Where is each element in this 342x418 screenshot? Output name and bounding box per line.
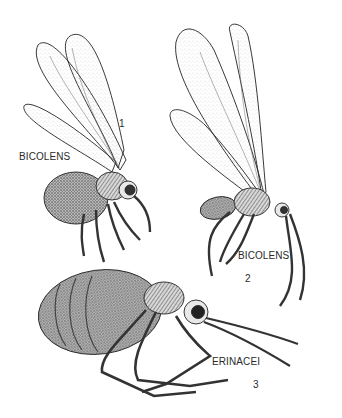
- specimen-2-number: 2: [245, 273, 251, 284]
- specimen-3-abdomen: [33, 262, 167, 362]
- specimen-1-label: BICOLENS: [19, 151, 70, 162]
- specimen-2-thorax: [234, 188, 270, 216]
- specimen-3-label: ERINACEI: [212, 356, 260, 367]
- specimen-2-eye: [281, 207, 288, 214]
- insect-illustration-plate: 1 BICOLENS BICOLENS 2 ERINACEI 3: [0, 0, 342, 418]
- illustration-drawing: [0, 0, 342, 418]
- specimen-2-abdomen: [198, 193, 238, 222]
- specimen-3-thorax: [144, 282, 184, 314]
- specimen-2-label: BICOLENS: [238, 250, 289, 261]
- specimen-3-drawing: [33, 262, 298, 396]
- specimen-3-number: 3: [253, 379, 259, 390]
- specimen-1-number: 1: [119, 118, 125, 129]
- specimen-1-drawing: [24, 34, 150, 262]
- specimen-3-eye: [192, 306, 205, 319]
- specimen-2-drawing: [170, 24, 304, 306]
- specimen-1-eye: [125, 185, 135, 195]
